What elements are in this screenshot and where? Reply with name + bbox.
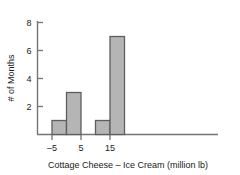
y-tick-label: 6 [26, 46, 31, 56]
y-tick-label: 8 [26, 18, 31, 28]
histogram-bar [52, 121, 67, 135]
x-axis-title: Cottage Cheese – Ice Cream (million lb) [48, 160, 208, 170]
histogram-bar [67, 93, 82, 135]
y-tick-label: 4 [26, 74, 31, 84]
histogram-bar [96, 121, 111, 135]
histogram-chart: 2468 –5515 # of Months Cottage Cheese – … [0, 0, 240, 175]
chart-svg: 2468 –5515 # of Months Cottage Cheese – … [0, 0, 240, 175]
y-tick-label: 2 [26, 102, 31, 112]
x-tick-label: 15 [105, 143, 115, 153]
histogram-bar [110, 37, 125, 135]
x-tick-label: –5 [47, 143, 57, 153]
x-tick-label: 5 [78, 143, 83, 153]
y-axis-title: # of Months [6, 54, 16, 102]
